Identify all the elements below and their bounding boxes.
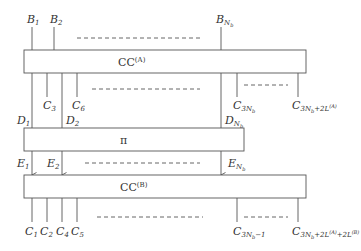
label-b2: B2 [49, 13, 63, 27]
label-c-final: C3Nb+2L(A)+2L(B) [292, 225, 359, 240]
label-dnb: DNb [224, 114, 243, 129]
circuit-diagram: B1 B2 BNb CC(A) C3 C6 C3Nb C3Nb+2L(A) D1… [0, 0, 361, 251]
label-e1: E1 [16, 157, 30, 171]
cc-b-box [24, 175, 306, 198]
label-c3nb-2la: C3Nb+2L(A) [292, 99, 337, 114]
label-b1: B1 [26, 13, 40, 27]
pi-label: π [120, 134, 127, 147]
label-c5: C5 [71, 225, 84, 239]
label-d2: D2 [65, 114, 80, 128]
label-c3: C3 [43, 99, 56, 113]
label-c4: C4 [56, 225, 69, 239]
label-bnb: BNb [215, 13, 233, 28]
label-c3nb: C3Nb [233, 99, 255, 114]
pi-box [24, 128, 244, 151]
label-enb: ENb [227, 157, 245, 172]
label-e2: E2 [46, 157, 60, 171]
label-c2: C2 [40, 225, 53, 239]
cc-a-box [24, 50, 306, 73]
label-c3nb-1: C3Nb−1 [233, 225, 266, 240]
label-c6: C6 [72, 99, 85, 113]
label-c1: C1 [25, 225, 38, 239]
label-d1: D1 [16, 114, 30, 128]
